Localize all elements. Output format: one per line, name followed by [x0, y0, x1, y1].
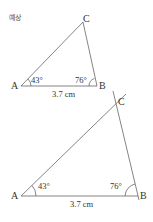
vertex-label-a: A — [11, 81, 18, 91]
vertex-label-b: B — [99, 81, 106, 91]
angle-b-label: 76° — [75, 75, 87, 85]
vertex-label-c: C — [118, 97, 125, 107]
vertex-label-c: C — [83, 14, 90, 24]
angle-a-label: 43° — [38, 181, 50, 191]
angle-b-label: 76° — [110, 181, 122, 191]
side-ab-label: 3.7 cm — [70, 199, 93, 209]
side-ab-label: 3.7 cm — [52, 89, 75, 99]
vertex-label-a: A — [11, 191, 18, 201]
angle-a-label: 43° — [31, 75, 43, 85]
triangle-small-drawing — [0, 0, 153, 222]
vertex-label-b: B — [140, 191, 147, 201]
